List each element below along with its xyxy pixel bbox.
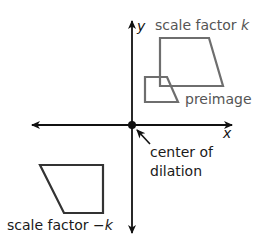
x-axis-label: x (222, 125, 232, 141)
preimage-label: preimage (185, 91, 252, 107)
scale-factor-neg-k-label: scale factor −k (7, 217, 114, 233)
preimage-shape (145, 77, 178, 102)
y-axis-label: y (136, 18, 146, 34)
center-of-dilation-label-line1: center of (150, 144, 214, 160)
center-of-dilation-point (128, 121, 136, 129)
image-scale-k-shape (160, 38, 223, 86)
image-scale-neg-k-shape (40, 165, 103, 213)
center-of-dilation-label-line2: dilation (150, 163, 202, 179)
dilation-diagram: y x scale factor k preimage center of di… (0, 0, 269, 237)
scale-factor-k-label: scale factor k (155, 17, 250, 33)
center-pointer-arrow (137, 130, 150, 144)
